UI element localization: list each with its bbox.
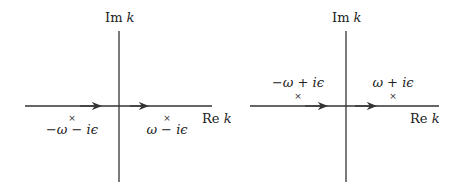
im-axis-label: Im k	[105, 10, 135, 25]
re-axis-label: Re k	[202, 111, 232, 126]
pole-label: ω − iϵ	[146, 122, 188, 137]
contour-diagrams: Im k Re k × −ω − iϵ × ω − iϵ Im k Re k −…	[0, 0, 460, 193]
pole-marker-icon: ×	[294, 91, 302, 101]
pole-label: ω + iϵ	[372, 75, 414, 90]
pole-label: −ω − iϵ	[46, 122, 99, 137]
pole-label: −ω + iϵ	[272, 75, 325, 90]
pole-marker-icon: ×	[389, 91, 397, 101]
diagram-right: Im k Re k −ω + iϵ × ω + iϵ ×	[250, 10, 440, 182]
re-axis-label: Re k	[410, 111, 440, 126]
im-axis-label: Im k	[332, 10, 362, 25]
diagram-left: Im k Re k × −ω − iϵ × ω − iϵ	[25, 10, 232, 182]
